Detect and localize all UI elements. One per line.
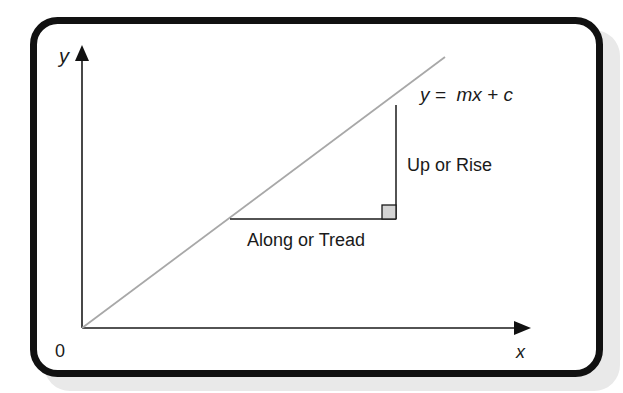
- right-angle-icon: [382, 205, 396, 219]
- equation-label: y = mx + c: [418, 84, 513, 105]
- x-axis-label: x: [515, 342, 526, 362]
- y-axis-label: y: [57, 45, 70, 67]
- frame-border: [34, 21, 600, 374]
- rise-label: Up or Rise: [407, 155, 492, 175]
- tread-label: Along or Tread: [247, 230, 365, 250]
- gradient-diagram: y x 0 y = mx + c Up or Rise Along or Tre…: [0, 0, 623, 393]
- origin-label: 0: [55, 341, 65, 361]
